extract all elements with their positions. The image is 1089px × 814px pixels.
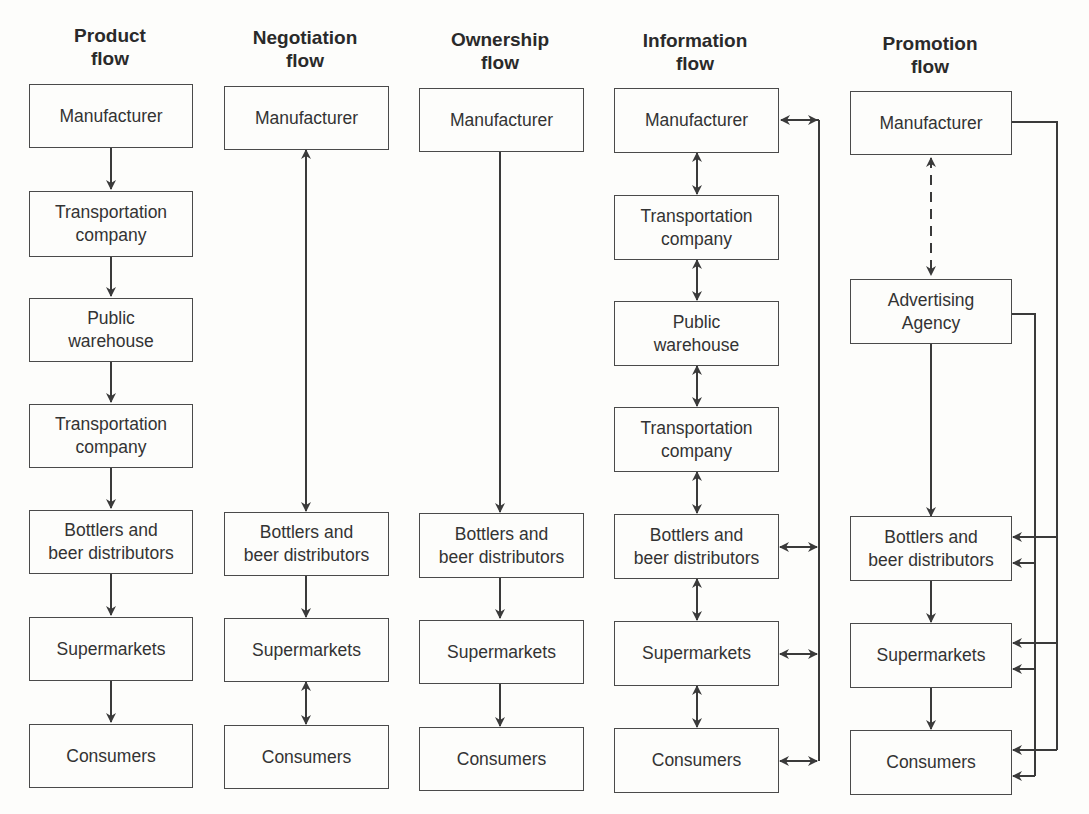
title-negotiation-flow: Negotiation flow (225, 26, 385, 72)
node-label: Transportation (55, 201, 167, 224)
node-label: Bottlers and (868, 526, 993, 549)
node-label: Public (68, 307, 154, 330)
information-node-manufacturer: Manufacturer (614, 88, 779, 153)
node-label: Manufacturer (645, 109, 748, 132)
node-label: Bottlers and (48, 519, 173, 542)
node-label: Manufacturer (255, 107, 358, 130)
node-label: Consumers (66, 745, 155, 768)
information-node-transportation-2: Transportationcompany (614, 407, 779, 472)
title-line: flow (30, 47, 190, 70)
node-label: Supermarkets (642, 642, 751, 665)
node-label: Agency (888, 312, 975, 335)
node-label: beer distributors (439, 546, 564, 569)
ownership-node-consumers: Consumers (419, 727, 584, 791)
node-label: Manufacturer (450, 109, 553, 132)
information-node-public-warehouse: Publicwarehouse (614, 301, 779, 366)
node-label: company (640, 440, 752, 463)
product-node-manufacturer: Manufacturer (29, 84, 193, 148)
title-product-flow: Product flow (30, 24, 190, 70)
title-line: Ownership (420, 28, 580, 51)
node-label: Advertising (888, 289, 975, 312)
information-node-bottlers: Bottlers andbeer distributors (614, 514, 779, 579)
node-label: Bottlers and (244, 521, 369, 544)
node-label: Supermarkets (252, 639, 361, 662)
title-line: Information (615, 29, 775, 52)
product-node-public-warehouse: Publicwarehouse (29, 298, 193, 362)
node-label: Consumers (886, 751, 975, 774)
node-label: Transportation (640, 417, 752, 440)
ownership-node-manufacturer: Manufacturer (419, 88, 584, 152)
node-label: Supermarkets (877, 644, 986, 667)
title-line: flow (420, 51, 580, 74)
title-promotion-flow: Promotion flow (850, 32, 1010, 78)
node-label: Transportation (640, 205, 752, 228)
title-line: flow (850, 55, 1010, 78)
product-node-consumers: Consumers (29, 724, 193, 788)
node-label: Consumers (652, 749, 741, 772)
node-label: Supermarkets (57, 638, 166, 661)
negotiation-node-bottlers: Bottlers andbeer distributors (224, 512, 389, 576)
information-node-consumers: Consumers (614, 728, 779, 793)
title-information-flow: Information flow (615, 29, 775, 75)
node-label: Supermarkets (447, 641, 556, 664)
product-node-supermarkets: Supermarkets (29, 617, 193, 681)
promotion-node-manufacturer: Manufacturer (850, 91, 1012, 155)
node-label: beer distributors (48, 542, 173, 565)
node-label: Consumers (457, 748, 546, 771)
negotiation-node-supermarkets: Supermarkets (224, 618, 389, 682)
node-label: Consumers (262, 746, 351, 769)
information-node-supermarkets: Supermarkets (614, 621, 779, 686)
information-node-transportation-1: Transportationcompany (614, 195, 779, 260)
promotion-node-bottlers: Bottlers andbeer distributors (850, 516, 1012, 581)
negotiation-node-consumers: Consumers (224, 725, 389, 789)
node-label: company (55, 436, 167, 459)
node-label: Manufacturer (879, 112, 982, 135)
node-label: Manufacturer (59, 105, 162, 128)
ownership-node-supermarkets: Supermarkets (419, 620, 584, 684)
product-node-transportation-2: Transportationcompany (29, 404, 193, 468)
node-label: Public (654, 311, 740, 334)
promotion-node-advertising-agency: AdvertisingAgency (850, 279, 1012, 344)
node-label: Bottlers and (439, 523, 564, 546)
title-line: Promotion (850, 32, 1010, 55)
node-label: beer distributors (868, 549, 993, 572)
node-label: warehouse (654, 334, 740, 357)
title-line: Product (30, 24, 190, 47)
promotion-node-consumers: Consumers (850, 730, 1012, 795)
ownership-node-bottlers: Bottlers andbeer distributors (419, 513, 584, 578)
node-label: company (640, 228, 752, 251)
node-label: company (55, 224, 167, 247)
title-line: flow (615, 52, 775, 75)
title-ownership-flow: Ownership flow (420, 28, 580, 74)
node-label: beer distributors (244, 544, 369, 567)
product-node-transportation-1: Transportationcompany (29, 191, 193, 257)
node-label: Transportation (55, 413, 167, 436)
node-label: warehouse (68, 330, 154, 353)
negotiation-node-manufacturer: Manufacturer (224, 86, 389, 150)
node-label: beer distributors (634, 547, 759, 570)
title-line: flow (225, 49, 385, 72)
promotion-node-supermarkets: Supermarkets (850, 623, 1012, 688)
title-line: Negotiation (225, 26, 385, 49)
product-node-bottlers: Bottlers andbeer distributors (29, 510, 193, 574)
node-label: Bottlers and (634, 524, 759, 547)
